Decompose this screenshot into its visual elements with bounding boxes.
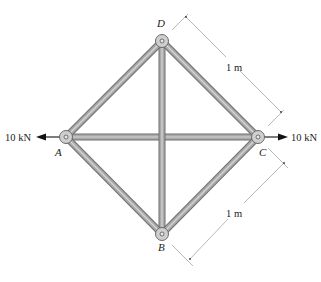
node-label-c: C [259,146,267,158]
dimension-tick [280,111,282,113]
member-ad [66,41,162,137]
dimension-tick [283,162,285,164]
truss-diagram: 1 m 1 m 10 kN 10 kN A B C D [0,0,321,282]
member-bc [162,137,258,234]
joint-d [156,35,169,48]
dimension-label-dc: 1 m [226,62,242,73]
load-label-c: 10 kN [291,132,317,143]
arrow-left-icon [36,134,46,141]
pin-icon [256,135,260,139]
member-ab [66,137,162,234]
dimension-tick [189,258,191,260]
dimension-line [186,17,226,57]
joint-b [156,228,169,241]
pin-icon [160,39,164,43]
dimension-tick [185,16,187,18]
node-label-a: A [54,146,62,158]
load-arrow-c: 10 kN [262,132,317,143]
arrow-right-icon [278,134,288,141]
load-label-a: 10 kN [5,132,31,143]
pin-icon [160,232,164,236]
dimension-line [190,219,228,259]
node-label-b: B [158,241,165,253]
extension-line [172,245,193,266]
joint-a [60,131,73,144]
load-arrow-a: 10 kN [5,132,62,143]
member-dc [162,41,258,137]
dimension-line [244,163,284,203]
extension-line [268,148,288,168]
pin-icon [64,135,68,139]
dimension-line [240,71,281,112]
node-label-d: D [156,17,165,29]
joint-c [252,131,265,144]
dimension-label-cb: 1 m [226,208,242,219]
